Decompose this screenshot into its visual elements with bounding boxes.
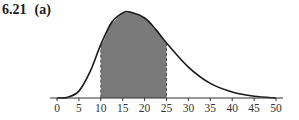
x-tick-label: 5	[76, 102, 82, 114]
x-tick-label: 15	[117, 102, 129, 114]
x-tick-label: 10	[95, 102, 107, 114]
x-tick-label: 50	[270, 102, 282, 114]
x-tick-label: 40	[226, 102, 238, 114]
x-tick-label: 45	[248, 102, 260, 114]
x-axis: 05101520253035404550	[50, 98, 283, 114]
density-chart: 05101520253035404550	[0, 0, 299, 120]
x-tick-label: 20	[139, 102, 151, 114]
x-tick-label: 30	[183, 102, 195, 114]
x-tick-label: 35	[205, 102, 217, 114]
x-tick-label: 25	[161, 102, 173, 114]
x-tick-label: 0	[54, 102, 60, 114]
